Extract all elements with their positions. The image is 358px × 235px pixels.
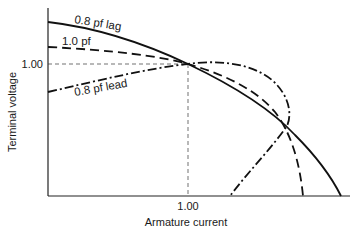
label-0.8pf-lag: 0.8 pf lag <box>74 13 123 32</box>
y-tick-label: 1.00 <box>22 58 43 70</box>
label-1.0pf: 1.0 pf <box>62 35 92 47</box>
series-0.8pf-lead <box>48 62 289 196</box>
x-axis-label: Armature current <box>145 216 228 228</box>
series-1.0pf <box>48 47 303 196</box>
x-tick-label: 1.00 <box>177 200 198 212</box>
chart: 0.8 pf lag 1.0 pf 0.8 pf lead 1.00 1.00 … <box>0 0 358 235</box>
series-0.8pf-lag <box>48 22 341 196</box>
y-axis-label: Terminal voltage <box>6 72 18 152</box>
